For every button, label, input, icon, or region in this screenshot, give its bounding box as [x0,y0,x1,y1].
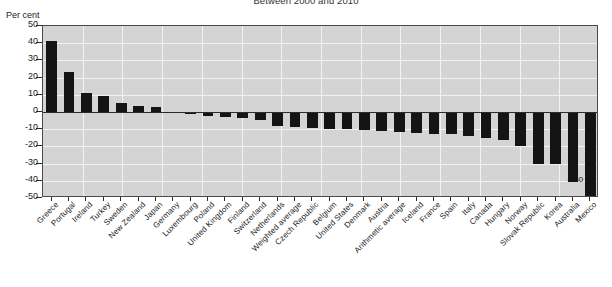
bar [359,112,370,130]
y-axis-tick-label: -10 [6,122,38,132]
y-axis-tick-label: -40 [6,174,38,184]
bar [533,112,544,164]
bar-value-annotation: -140 [547,175,583,184]
y-axis-tick-label: -20 [6,139,38,149]
x-axis-category-labels: GreecePortugalIrelandTurkeySwedenNew Zea… [0,200,612,287]
bar [568,112,579,182]
y-axis-tick-label: 0 [6,105,38,115]
zero-axis-line [43,112,597,113]
bar-series [43,26,597,196]
bar [411,112,422,133]
bar [46,41,57,112]
y-axis-tick-label: 40 [6,36,38,46]
bar [429,112,440,134]
bar [116,103,127,112]
bar [81,93,92,112]
bar [394,112,405,132]
y-axis-tick-label: -30 [6,157,38,167]
bar [98,96,109,112]
chart-title: Between 2000 and 2010 [0,0,612,6]
bar [498,112,509,140]
bar [307,112,318,128]
bar [463,112,474,136]
bar [272,112,283,126]
y-axis-tick-label: 20 [6,71,38,81]
y-axis-tick-label: 30 [6,53,38,63]
y-axis-labels: 50403020100-10-20-30-40-50 [0,25,38,197]
bar [376,112,387,131]
bar [515,112,526,146]
bar [446,112,457,134]
x-axis-label: Spain [438,200,459,221]
plot-area [42,25,598,197]
bar [342,112,353,129]
bar [481,112,492,138]
y-axis-tick-label: 50 [6,19,38,29]
bar [324,112,335,129]
bar [585,112,596,197]
bar [550,112,561,164]
bar [290,112,301,127]
chart-figure: Between 2000 and 2010 Per cent 504030201… [0,0,612,287]
bar [64,72,75,112]
y-axis-tick-label: 10 [6,88,38,98]
